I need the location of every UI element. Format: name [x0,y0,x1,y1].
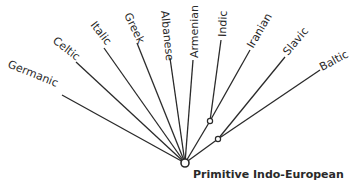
branch-line-indo-iranian [185,121,210,163]
tree-diagram: Germanic Celtic Italic Greek Albanese Ar… [0,0,357,190]
branch-line-albanese [170,58,185,163]
label-greek: Greek [121,11,147,47]
node-indo-iranian [207,118,212,123]
label-italic: Italic [88,19,115,48]
label-root: Primitive Indo-European [193,168,344,181]
branch-line-italic [104,48,185,163]
branch-line-indic [210,40,221,121]
branch-line-iranian [210,50,250,121]
indo-european-family-tree: Germanic Celtic Italic Greek Albanese Ar… [0,0,357,190]
label-celtic: Celtic [50,34,82,63]
label-germanic: Germanic [6,58,60,90]
node-root [181,159,189,167]
branch-line-armenian [185,60,193,163]
label-armenian: Armenian [188,5,201,58]
branch-line-greek [137,43,185,163]
label-indic: Indic [216,10,230,37]
label-baltic: Baltic [317,48,350,74]
label-albanese: Albanese [158,10,176,62]
branch-line-balto-slavic [185,139,218,163]
node-balto-slavic [215,136,220,141]
label-slavic: Slavic [280,25,311,58]
label-iranian: Iranian [244,11,274,51]
branch-line-slavic [218,57,285,139]
